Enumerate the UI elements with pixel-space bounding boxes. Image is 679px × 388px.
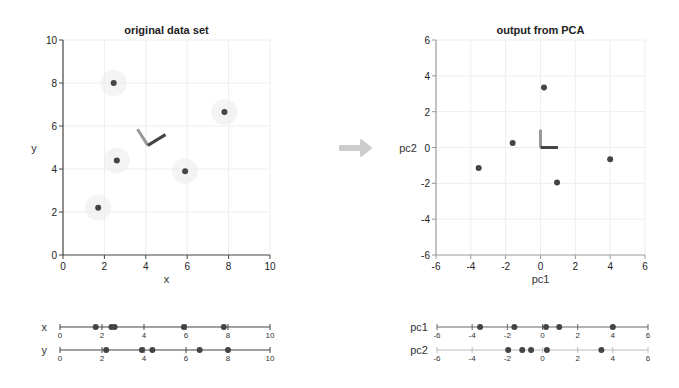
x-axis-label: x [164,273,170,285]
strip-tick-label: 8 [226,354,231,363]
strip-point [139,347,145,353]
y-axis-label: pc2 [399,142,417,154]
strip-tick-label: -2 [504,354,512,363]
pca-figure: 02468100246810original data setxy -6-4-2… [0,0,679,388]
y-tick-label: 6 [424,35,430,46]
strip-label: x [42,321,48,333]
strip-point [181,324,187,330]
x-axis-label: pc1 [532,273,550,285]
strip-tick-label: -6 [433,354,441,363]
y-tick-label: -4 [421,214,430,225]
y-tick-label: 0 [51,250,57,261]
strip-tick-label: 0 [58,354,63,363]
strip-tick-label: 0 [540,331,545,340]
original-strip-plot: x0246810y0246810 [42,321,275,363]
strip-tick-label: -6 [433,331,441,340]
strip-point [556,324,562,330]
strip-label: y [42,344,48,356]
y-tick-label: 0 [424,143,430,154]
data-point [541,84,547,90]
data-point [111,80,117,86]
strip-tick-label: 6 [646,331,651,340]
strip-label: pc1 [410,321,428,333]
original-data-chart: 02468100246810original data setxy [31,24,276,285]
strip-point [103,347,109,353]
x-tick-label: 0 [538,261,544,272]
strip-tick-label: 8 [226,331,231,340]
y-tick-label: 10 [46,35,58,46]
strip-tick-label: 2 [100,331,105,340]
strip-tick-label: 4 [611,354,616,363]
x-tick-label: 4 [607,261,613,272]
strip-tick-label: 4 [142,331,147,340]
strip-point [149,347,155,353]
strip-label: pc2 [410,344,428,356]
strip-point [610,324,616,330]
strip-point [543,324,549,330]
x-tick-label: 2 [102,261,108,272]
strip-tick-label: -4 [469,354,477,363]
transform-arrow-icon [340,140,371,156]
strip-point [221,324,227,330]
strip-tick-label: -2 [504,331,512,340]
chart-title: original data set [124,24,209,36]
strip-tick-label: 2 [100,354,105,363]
strip-point [598,347,604,353]
data-point [554,179,560,185]
data-point [510,140,516,146]
data-point [95,205,101,211]
strip-point [519,347,525,353]
x-tick-label: 2 [573,261,579,272]
strip-point [93,324,99,330]
data-point [607,156,613,162]
strip-tick-label: 6 [184,354,189,363]
strip-tick-label: 10 [266,331,275,340]
y-axis-label: y [31,142,37,154]
x-tick-label: 6 [184,261,190,272]
y-tick-label: 2 [424,107,430,118]
strip-tick-label: 2 [575,354,580,363]
strip-point [477,324,483,330]
y-tick-label: 6 [51,121,57,132]
y-tick-label: 8 [51,78,57,89]
strip-tick-label: 0 [540,354,545,363]
chart-title: output from PCA [497,24,585,36]
x-tick-label: -2 [501,261,510,272]
strip-tick-label: 6 [646,354,651,363]
strip-tick-label: -4 [469,331,477,340]
x-tick-label: 10 [264,261,276,272]
strip-point [511,324,517,330]
arrow-shape [340,140,371,156]
strip-tick-label: 10 [266,354,275,363]
strip-tick-label: 4 [611,331,616,340]
data-point [221,109,227,115]
strip-tick-label: 4 [142,354,147,363]
strip-point [225,347,231,353]
pca-strip-plot: pc1-6-4-20246pc2-6-4-20246 [410,321,651,363]
data-point [114,157,120,163]
x-tick-label: 0 [60,261,66,272]
x-tick-label: -4 [466,261,475,272]
strip-point [505,347,511,353]
y-tick-label: 2 [51,207,57,218]
pc2-direction-vector [138,129,148,145]
strip-tick-label: 6 [184,331,189,340]
strip-point [544,347,550,353]
x-tick-label: 4 [143,261,149,272]
y-tick-label: -2 [421,178,430,189]
data-point [476,165,482,171]
y-tick-label: -6 [421,250,430,261]
y-tick-label: 4 [51,164,57,175]
x-tick-label: -6 [432,261,441,272]
strip-point [197,347,203,353]
x-tick-label: 8 [226,261,232,272]
pca-output-chart: -6-4-20246-6-4-20246output from PCApc1pc… [399,24,648,285]
strip-point [112,324,118,330]
x-tick-label: 6 [642,261,648,272]
strip-tick-label: 0 [58,331,63,340]
y-tick-label: 4 [424,71,430,82]
strip-tick-label: 2 [575,331,580,340]
strip-point [528,347,534,353]
data-point [182,168,188,174]
pc1-direction-vector [148,135,166,146]
